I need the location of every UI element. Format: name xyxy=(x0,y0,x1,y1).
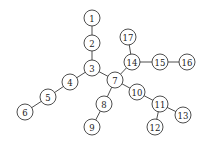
node-2: 2 xyxy=(84,35,100,51)
node-label: 6 xyxy=(22,108,27,118)
node-label: 9 xyxy=(89,123,94,133)
node-5: 5 xyxy=(40,89,56,105)
node-label: 5 xyxy=(45,93,50,103)
node-label: 4 xyxy=(67,78,72,88)
node-11: 11 xyxy=(152,96,168,112)
node-label: 11 xyxy=(155,100,166,110)
node-label: 14 xyxy=(127,58,138,68)
node-16: 16 xyxy=(179,54,195,70)
node-label: 1 xyxy=(89,14,94,24)
node-7: 7 xyxy=(107,72,123,88)
node-12: 12 xyxy=(147,119,163,135)
node-9: 9 xyxy=(84,119,100,135)
node-label: 10 xyxy=(132,88,143,98)
node-label: 17 xyxy=(123,33,134,43)
nodes-layer: 1234567891011121314151617 xyxy=(17,10,195,135)
node-8: 8 xyxy=(96,96,112,112)
node-13: 13 xyxy=(175,107,191,123)
node-14: 14 xyxy=(124,54,140,70)
tree-diagram: 1234567891011121314151617 xyxy=(0,0,209,150)
node-17: 17 xyxy=(120,29,136,45)
node-10: 10 xyxy=(129,84,145,100)
node-label: 16 xyxy=(182,58,193,68)
node-label: 15 xyxy=(155,58,166,68)
node-15: 15 xyxy=(152,54,168,70)
node-4: 4 xyxy=(62,74,78,90)
node-6: 6 xyxy=(17,104,33,120)
node-label: 8 xyxy=(101,100,106,110)
node-label: 13 xyxy=(178,111,189,121)
node-label: 3 xyxy=(89,64,94,74)
node-1: 1 xyxy=(84,10,100,26)
node-label: 7 xyxy=(112,76,117,86)
node-3: 3 xyxy=(84,60,100,76)
node-label: 12 xyxy=(150,123,161,133)
node-label: 2 xyxy=(89,39,94,49)
